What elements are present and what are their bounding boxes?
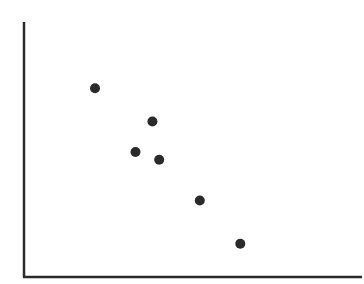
data-points [90,83,245,249]
data-point [195,196,205,206]
data-point [90,83,100,93]
data-point [147,117,157,127]
scatter-chart [0,0,364,284]
data-point [235,239,245,249]
data-point [154,155,164,165]
data-point [131,147,141,157]
